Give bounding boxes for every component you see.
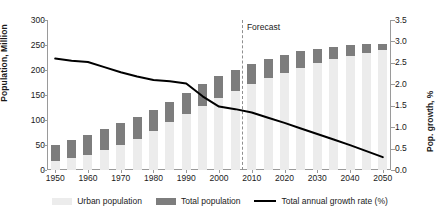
x-axis-tick-mark — [219, 170, 220, 173]
y-axis-left-tick-label: 100 — [21, 116, 45, 125]
y-axis-left-title: Population, Million — [0, 0, 10, 20]
x-axis-tick-label: 2010 — [235, 173, 269, 183]
forecast-label: Forecast — [247, 22, 280, 32]
x-axis-tick-mark — [88, 170, 89, 173]
x-axis-tick-mark — [252, 170, 253, 173]
x-axis-tick-label: 2050 — [366, 173, 400, 183]
chart-legend: Urban population Total population Total … — [0, 196, 440, 206]
legend-item-growth-rate: Total annual growth rate (%) — [254, 196, 387, 206]
y-axis-left-title-text: Population, Million — [0, 24, 10, 101]
y-axis-right-tick-label: 1.5 — [395, 101, 421, 110]
y-axis-right-tick-mark — [391, 63, 395, 64]
y-axis-right-title: Pop. growth, % — [424, 0, 436, 24]
x-axis-tick-mark — [383, 170, 384, 173]
population-growth-chart: Population, Million Pop. growth, % 05010… — [0, 0, 440, 219]
y-axis-right-tick-label: 0.5 — [395, 144, 421, 153]
y-axis-right-tick-mark — [391, 41, 395, 42]
y-axis-left-tick-label: 300 — [21, 16, 45, 25]
legend-item-total-population: Total population — [156, 196, 241, 206]
y-axis-right-tick-label: 2.0 — [395, 80, 421, 89]
x-axis-tick-label: 2030 — [300, 173, 334, 183]
x-axis-tick-label: 1990 — [169, 173, 203, 183]
x-axis-tick-mark — [186, 170, 187, 173]
total-swatch-icon — [156, 198, 176, 205]
legend-label-total: Total population — [181, 196, 241, 206]
y-axis-right-tick-mark — [391, 20, 395, 21]
legend-item-urban-population: Urban population — [52, 196, 142, 206]
legend-label-growth: Total annual growth rate (%) — [281, 196, 387, 206]
x-axis-tick-mark — [317, 170, 318, 173]
y-axis-right-tick-mark — [391, 170, 395, 171]
y-axis-left-tick-mark — [43, 170, 47, 171]
growth-rate-polyline — [55, 59, 383, 158]
x-axis-tick-label: 1950 — [38, 173, 72, 183]
y-axis-right-tick-label: 3.5 — [395, 16, 421, 25]
x-axis-tick-label: 1960 — [71, 173, 105, 183]
y-axis-right-title-text: Pop. growth, % — [424, 91, 436, 152]
line-swatch-icon — [254, 200, 276, 202]
x-axis-tick-mark — [285, 170, 286, 173]
x-axis-tick-label: 2000 — [202, 173, 236, 183]
x-axis-tick-mark — [350, 170, 351, 173]
x-axis-tick-label: 2020 — [268, 173, 302, 183]
y-axis-right-tick-mark — [391, 127, 395, 128]
y-axis-left-tick-label: 50 — [21, 141, 45, 150]
x-axis-tick-mark — [153, 170, 154, 173]
y-axis-right-tick-label: 3.0 — [395, 37, 421, 46]
x-axis-tick-mark — [55, 170, 56, 173]
y-axis-left-tick-label: 200 — [21, 66, 45, 75]
y-axis-right-tick-label: 1.0 — [395, 123, 421, 132]
y-axis-left-tick-label: 150 — [21, 91, 45, 100]
x-axis-tick-mark — [121, 170, 122, 173]
x-axis-tick-label: 1970 — [104, 173, 138, 183]
y-axis-right-tick-mark — [391, 84, 395, 85]
y-axis-left-tick-label: 250 — [21, 41, 45, 50]
legend-label-urban: Urban population — [77, 196, 142, 206]
x-axis-tick-label: 1980 — [136, 173, 170, 183]
plot-area — [47, 20, 391, 170]
y-axis-right-tick-mark — [391, 149, 395, 150]
urban-swatch-icon — [52, 198, 72, 205]
y-axis-right-tick-label: 2.5 — [395, 58, 421, 67]
x-axis-tick-label: 2040 — [333, 173, 367, 183]
growth-rate-line — [47, 20, 391, 170]
y-axis-right-tick-mark — [391, 106, 395, 107]
